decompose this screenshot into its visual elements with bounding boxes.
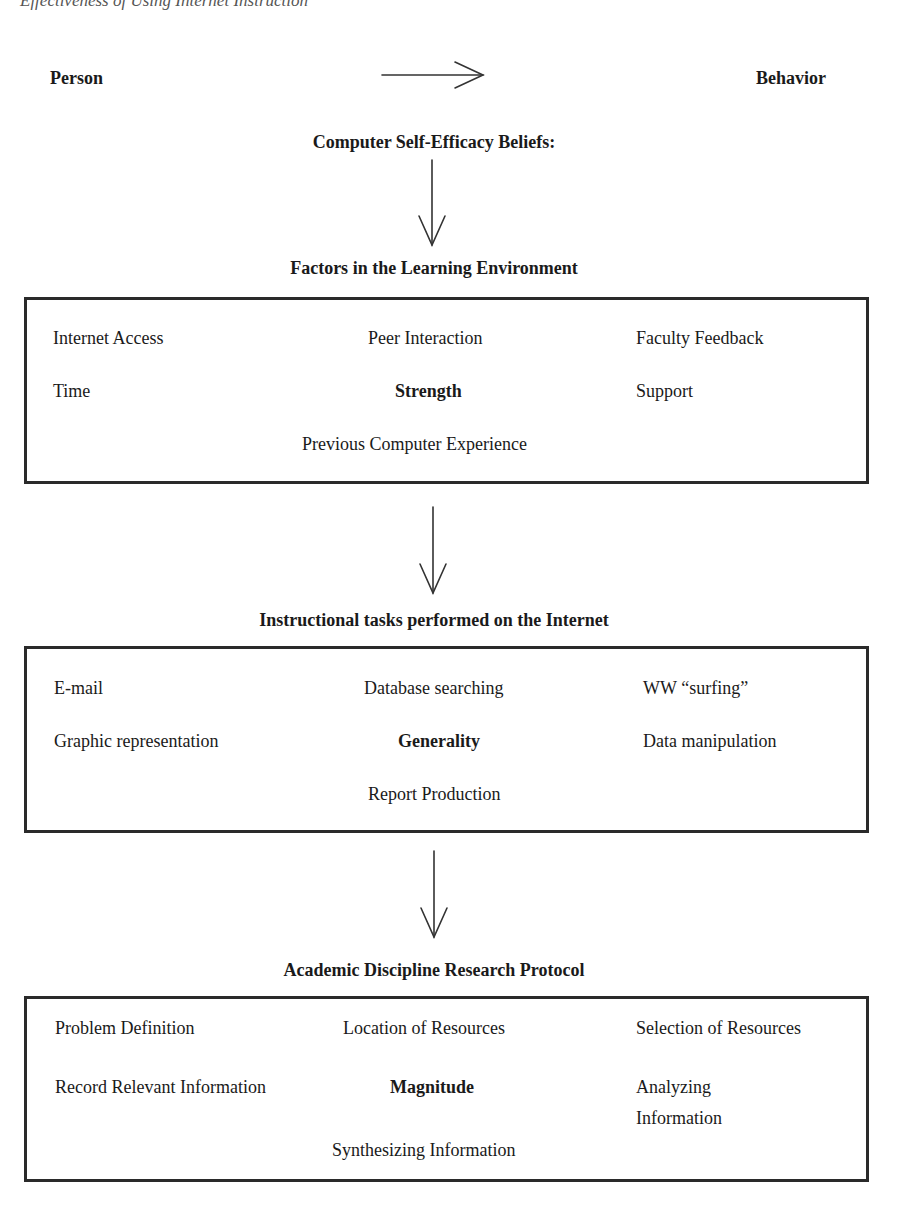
down-arrow-icon bbox=[419, 160, 445, 245]
section-heading: Instructional tasks performed on the Int… bbox=[0, 611, 868, 629]
task-item: E-mail bbox=[54, 679, 103, 697]
factor-item: Time bbox=[53, 382, 90, 400]
task-item: Report Production bbox=[368, 785, 501, 803]
protocol-item: Selection of Resources bbox=[636, 1019, 801, 1037]
task-item: Data manipulation bbox=[643, 732, 776, 750]
task-item: WW “surfing” bbox=[643, 679, 748, 697]
dimension-label: Generality bbox=[398, 732, 480, 750]
protocol-item: Record Relevant Information bbox=[55, 1078, 266, 1096]
section-heading: Factors in the Learning Environment bbox=[0, 259, 868, 277]
task-item: Database searching bbox=[364, 679, 503, 697]
factor-item: Previous Computer Experience bbox=[302, 435, 527, 453]
protocol-item: Analyzing bbox=[636, 1078, 711, 1096]
down-arrow-icon bbox=[421, 851, 447, 937]
right-arrow-icon bbox=[382, 62, 483, 88]
protocol-item: Problem Definition bbox=[55, 1019, 194, 1037]
factor-item: Support bbox=[636, 382, 693, 400]
section-heading: Academic Discipline Research Protocol bbox=[0, 961, 868, 979]
factor-item: Peer Interaction bbox=[368, 329, 482, 347]
task-item: Graphic representation bbox=[54, 732, 218, 750]
down-arrow-icon bbox=[420, 507, 446, 593]
protocol-item: Information bbox=[636, 1109, 722, 1127]
factor-item: Faculty Feedback bbox=[636, 329, 763, 347]
protocol-item: Location of Resources bbox=[343, 1019, 505, 1037]
factor-item: Internet Access bbox=[53, 329, 163, 347]
dimension-label: Strength bbox=[395, 382, 462, 400]
dimension-label: Magnitude bbox=[390, 1078, 474, 1096]
protocol-item: Synthesizing Information bbox=[332, 1141, 515, 1159]
root-heading: Computer Self-Efficacy Beliefs: bbox=[0, 133, 868, 151]
